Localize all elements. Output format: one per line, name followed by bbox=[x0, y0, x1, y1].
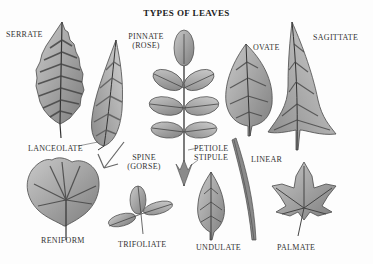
label-trifoliate: TRIFOLIATE bbox=[118, 240, 166, 249]
ovate-leaf-icon bbox=[226, 44, 272, 136]
label-undulate: UNDULATE bbox=[196, 243, 241, 252]
label-lanceolate: LANCEOLATE bbox=[28, 144, 83, 153]
label-pinnate: PINNATE (ROSE) bbox=[124, 32, 168, 50]
label-stipule: STIPULE bbox=[194, 153, 228, 162]
leaf-types-illustration: TYPES OF LEAVES bbox=[0, 0, 373, 264]
label-spine-line1: SPINE bbox=[124, 153, 164, 162]
serrate-leaf-icon bbox=[36, 22, 84, 138]
lanceolate-leaf-icon bbox=[78, 40, 123, 150]
label-pinnate-line2: (ROSE) bbox=[124, 41, 168, 50]
label-petiole: PETIOLE bbox=[194, 144, 229, 153]
reniform-leaf-icon bbox=[27, 158, 99, 240]
label-serrate: SERRATE bbox=[6, 30, 43, 39]
label-sagittate: SAGITTATE bbox=[313, 33, 358, 42]
label-linear: LINEAR bbox=[251, 155, 282, 164]
trifoliate-leaf-icon bbox=[107, 186, 174, 234]
linear-leaf-icon bbox=[232, 138, 256, 240]
label-ovate: OVATE bbox=[253, 43, 280, 52]
palmate-leaf-icon bbox=[272, 162, 336, 236]
undulate-leaf-icon bbox=[198, 172, 225, 240]
label-palmate: PALMATE bbox=[277, 243, 315, 252]
label-spine-line2: (GORSE) bbox=[124, 162, 164, 171]
label-reniform: RENIFORM bbox=[41, 236, 85, 245]
spine-gorse-icon bbox=[98, 142, 124, 168]
label-spine: SPINE (GORSE) bbox=[124, 153, 164, 171]
label-pinnate-line1: PINNATE bbox=[124, 32, 168, 41]
